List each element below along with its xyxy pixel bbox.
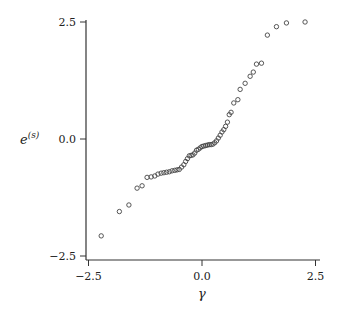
x-ticks: −2.50.02.5 [75,260,324,283]
data-point [248,74,252,78]
y-axis-label-superscript: (s) [28,130,40,140]
data-point [251,70,255,74]
data-point [238,87,242,91]
data-point [265,33,269,37]
data-point [225,120,229,124]
data-point [135,186,139,190]
data-point [254,62,258,66]
y-tick-label: 2.5 [59,16,77,29]
x-axis-label: γ [198,286,206,301]
data-point [140,184,144,188]
data-point [232,101,236,105]
data-point [127,203,131,207]
data-point [243,81,247,85]
x-tick-label: 0.0 [193,270,211,283]
data-point [99,234,103,238]
y-ticks: −2.50.02.5 [49,16,86,263]
data-point [274,24,278,28]
data-point [259,61,263,65]
scatter-plot: −2.50.02.5 −2.50.02.5 γ e(s) [0,0,339,317]
x-tick-label: 2.5 [307,270,325,283]
y-tick-label: −2.5 [49,250,76,263]
data-point [167,170,171,174]
x-tick-label: −2.5 [75,270,102,283]
data-point [284,21,288,25]
data-point [236,97,240,101]
y-tick-label: 0.0 [59,133,77,146]
data-point [117,209,121,213]
data-points [99,20,307,238]
y-axis-label: e(s) [20,130,40,147]
data-point [303,20,307,24]
